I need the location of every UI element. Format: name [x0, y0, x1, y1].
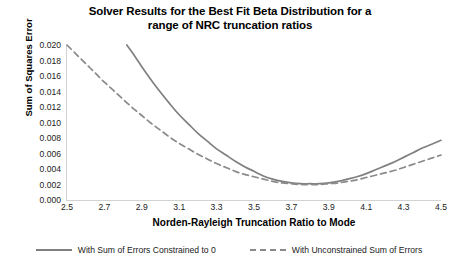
x-tick-label: 4.1	[360, 202, 372, 212]
x-axis-title: Norden-Rayleigh Truncation Ratio to Mode	[67, 217, 441, 228]
y-tick-label: 0.014	[25, 87, 61, 97]
x-tick-label: 4.3	[398, 202, 410, 212]
x-tick-label: 3.1	[173, 202, 185, 212]
x-tick-label: 3.9	[323, 202, 335, 212]
x-axis-tick-labels: 2.52.72.93.13.33.53.73.94.14.34.5	[67, 202, 441, 216]
y-tick-label: 0.018	[25, 56, 61, 66]
y-tick-label: 0.004	[25, 164, 61, 174]
plot-area: Sum of Squares Error 0.0000.0020.0040.00…	[66, 45, 441, 201]
y-tick-label: 0.012	[25, 102, 61, 112]
y-tick-label: 0.000	[25, 195, 61, 205]
legend-item[interactable]: With Unconstrained Sum of Errors	[250, 245, 422, 255]
chart-title-line-2: range of NRC truncation ratios	[148, 19, 312, 31]
chart-title-line-1: Solver Results for the Best Fit Beta Dis…	[89, 5, 372, 17]
legend-label: With Unconstrained Sum of Errors	[292, 245, 422, 255]
y-tick-label: 0.008	[25, 133, 61, 143]
legend-item[interactable]: With Sum of Errors Constrained to 0	[36, 245, 216, 255]
chart-legend: With Sum of Errors Constrained to 0With …	[0, 238, 458, 262]
legend-swatch-solid	[36, 245, 72, 255]
legend-label: With Sum of Errors Constrained to 0	[78, 245, 216, 255]
series-line-1	[127, 45, 441, 184]
chart-title: Solver Results for the Best Fit Beta Dis…	[40, 4, 420, 32]
x-tick-label: 2.5	[61, 202, 73, 212]
x-tick-label: 2.7	[98, 202, 110, 212]
x-tick-label: 2.9	[136, 202, 148, 212]
y-tick-label: 0.020	[25, 40, 61, 50]
plot-lines	[67, 45, 441, 200]
x-tick-label: 3.3	[211, 202, 223, 212]
x-tick-label: 4.5	[435, 202, 447, 212]
y-axis-tick-labels: 0.0000.0020.0040.0060.0080.0100.0120.014…	[25, 45, 61, 200]
y-tick-label: 0.010	[25, 118, 61, 128]
chart-container: Solver Results for the Best Fit Beta Dis…	[0, 0, 458, 265]
series-line-2	[67, 45, 441, 185]
y-tick-label: 0.006	[25, 149, 61, 159]
legend-swatch-dashed	[250, 245, 286, 255]
y-tick-label: 0.002	[25, 180, 61, 190]
x-tick-label: 3.7	[285, 202, 297, 212]
x-tick-label: 3.5	[248, 202, 260, 212]
y-tick-label: 0.016	[25, 71, 61, 81]
